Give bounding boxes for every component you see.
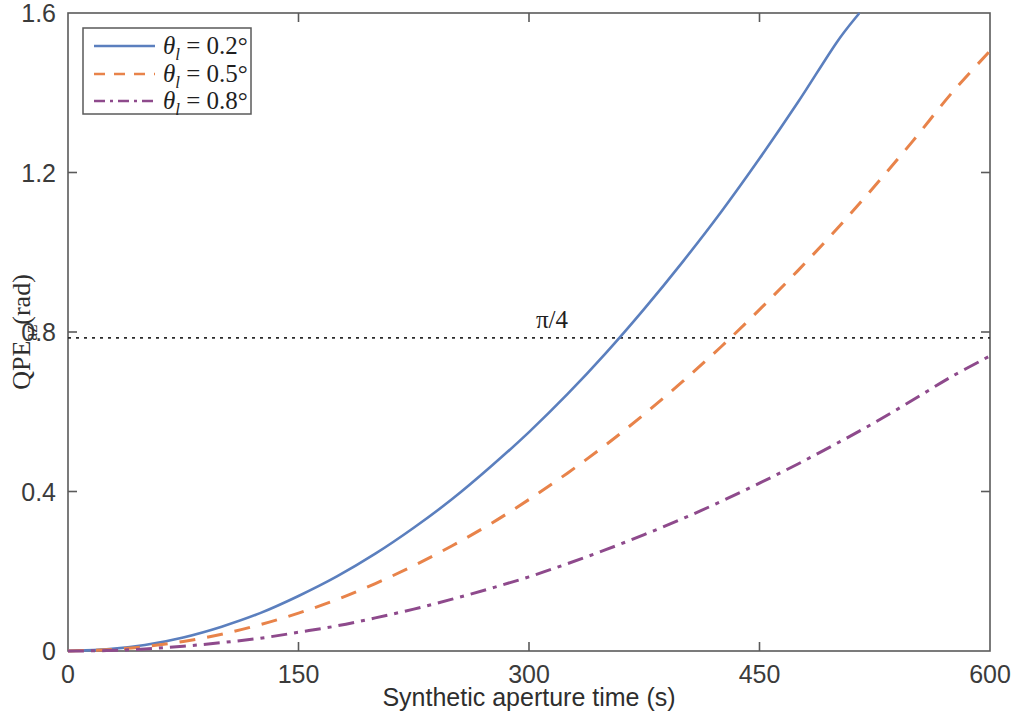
- x-tick-label: 150: [278, 660, 320, 688]
- y-axis-ticks: [68, 173, 990, 492]
- y-axis-title-text: QPEaz(rad): [7, 274, 41, 390]
- x-axis-ticks: [299, 13, 760, 651]
- pi-over-4-threshold-label: π/4: [536, 306, 569, 333]
- y-axis-title-main: QPE: [7, 341, 36, 390]
- x-tick-label: 0: [61, 660, 75, 688]
- figure-container: 0150300450600 00.40.81.21.6 π/4 Syntheti…: [0, 0, 1012, 713]
- x-tick-label: 600: [969, 660, 1011, 688]
- series-curve-2: [68, 51, 990, 651]
- y-tick-label: 1.2: [21, 159, 56, 187]
- y-tick-label: 1.6: [21, 0, 56, 27]
- chart-canvas: 0150300450600 00.40.81.21.6 π/4 Syntheti…: [0, 0, 1012, 713]
- y-axis-title-subscript: az: [21, 325, 41, 341]
- x-tick-label: 450: [739, 660, 781, 688]
- x-axis-title: Synthetic aperture time (s): [382, 683, 675, 711]
- y-axis-title-unit: (rad): [7, 274, 36, 325]
- y-tick-label: 0.4: [21, 478, 56, 506]
- y-tick-label: 0: [42, 637, 56, 665]
- reference-line-group: π/4: [68, 306, 990, 338]
- y-axis-title: QPEaz(rad): [7, 274, 41, 390]
- series-curve-3: [68, 356, 990, 651]
- legend[interactable]: θl = 0.2°θl = 0.5°θl = 0.8°: [83, 28, 251, 119]
